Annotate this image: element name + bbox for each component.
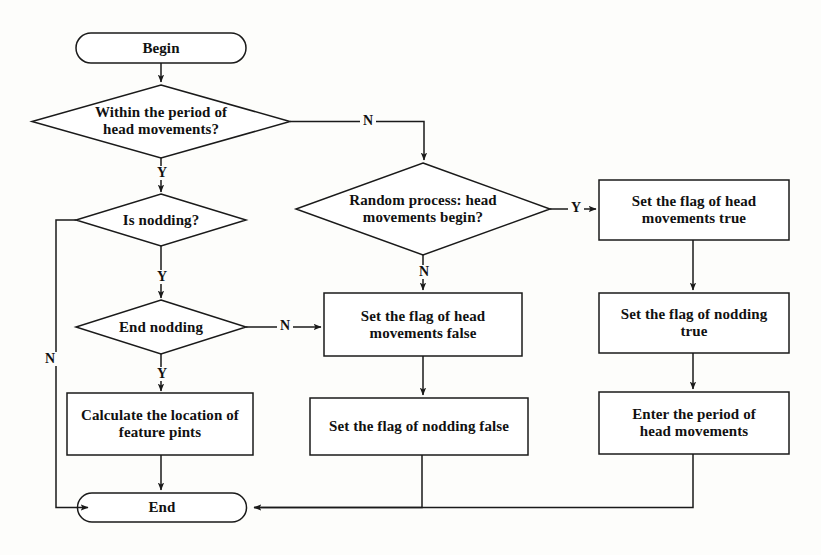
flowchart-diagram: Begin Within the period of head movement…	[0, 0, 821, 555]
edge-label-is-nodding-yes: Y	[154, 270, 170, 284]
flowchart-canvas	[0, 0, 821, 555]
edge-label-end-nodding-yes: Y	[154, 367, 170, 381]
node-flag-nodding-false-shape	[310, 398, 528, 455]
node-random-process-shape	[296, 163, 550, 255]
node-is-nodding-shape	[76, 194, 246, 246]
edge-label-random-no: N	[416, 265, 432, 279]
edge-enter-period-to-end	[254, 454, 693, 508]
node-flag-nodding-true-shape	[599, 293, 789, 353]
node-calculate-shape	[67, 393, 253, 455]
edge-label-random-yes: Y	[568, 201, 584, 215]
edge-label-within-period-yes: Y	[154, 166, 170, 180]
node-begin-shape	[76, 33, 246, 63]
edge-label-within-period-no: N	[360, 114, 376, 128]
edge-label-end-nodding-no: N	[277, 319, 293, 333]
node-enter-period-shape	[599, 392, 789, 454]
node-within-period-shape	[32, 85, 290, 158]
node-flag-head-true-shape	[599, 180, 789, 240]
node-end-nodding-shape	[76, 300, 246, 354]
edge-flag-nodding-false-to-end	[254, 455, 422, 508]
edge-within-period-no-to-random-process	[290, 122, 424, 161]
edge-label-is-nodding-no: N	[42, 352, 58, 366]
node-end-shape	[78, 493, 247, 522]
edge-is-nodding-no-to-end	[56, 220, 88, 508]
node-flag-head-false-shape	[324, 293, 522, 356]
